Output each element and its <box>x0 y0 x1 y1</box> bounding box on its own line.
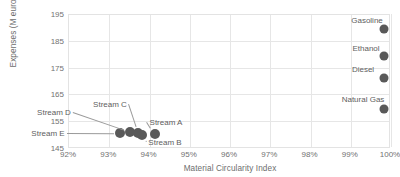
data-point-label: Ethanol <box>352 44 379 53</box>
y-axis-tick-label: 165 <box>38 90 64 99</box>
data-point-label: Natural Gas <box>342 95 385 104</box>
x-axis-tick-label: 95% <box>181 150 197 159</box>
data-point-label: Stream D <box>37 108 71 117</box>
data-point-marker[interactable] <box>379 51 388 60</box>
y-axis-tick-label: 155 <box>38 117 64 126</box>
data-point-marker[interactable] <box>379 24 388 33</box>
data-point-marker[interactable] <box>379 74 388 83</box>
x-axis-tick-label: 94% <box>140 150 156 159</box>
scatter-chart: Expenses (M euros/year) Material Circula… <box>0 0 400 177</box>
x-axis-tick-label: 99% <box>342 150 358 159</box>
x-axis-tick-label: 92% <box>60 150 76 159</box>
data-point-marker[interactable] <box>379 105 388 114</box>
data-point-label: Stream E <box>31 129 64 138</box>
data-point-marker[interactable] <box>137 130 147 140</box>
data-point-label: Stream B <box>148 138 181 147</box>
x-axis-tick-label: 96% <box>221 150 237 159</box>
x-axis-tick-label: 98% <box>301 150 317 159</box>
y-axis-tick-label: 185 <box>38 36 64 45</box>
x-axis-tick-label: 93% <box>100 150 116 159</box>
data-point-label: Gasoline <box>351 16 383 25</box>
axis-tick-layer: 14515516517518519592%93%94%95%96%97%98%9… <box>0 0 400 177</box>
y-axis-tick-label: 195 <box>38 10 64 19</box>
data-point-label: Diesel <box>352 65 374 74</box>
data-point-label: Stream C <box>93 100 127 109</box>
annotation-leader-line <box>67 133 114 134</box>
y-axis-tick-label: 175 <box>38 63 64 72</box>
x-axis-tick-label: 100% <box>380 150 400 159</box>
data-point-label: Stream A <box>150 118 183 127</box>
x-axis-tick-label: 97% <box>261 150 277 159</box>
